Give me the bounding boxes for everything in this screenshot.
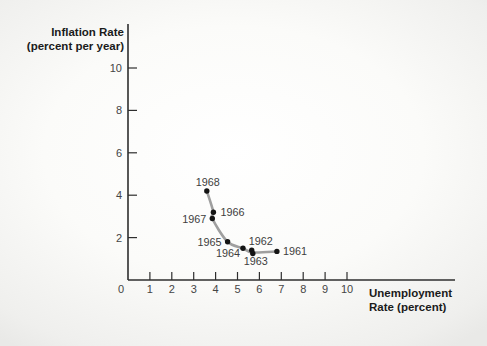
data-point-1967 [210,216,215,221]
y-tick-label-6: 6 [116,147,122,159]
x-tick-label-9: 9 [322,283,328,295]
year-label-1966: 1966 [220,206,244,218]
x-tick-label-0: 0 [118,283,124,295]
data-point-1968 [204,188,209,193]
x-axis-title-line1: Unemployment [369,287,452,301]
x-axis-title: Unemployment Rate (percent) [369,287,452,314]
y-axis-title-line1: Inflation Rate [0,26,124,40]
x-tick-label-2: 2 [169,283,175,295]
year-label-1961: 1961 [283,245,307,257]
data-point-1965 [225,239,230,244]
x-tick-label-7: 7 [278,283,284,295]
y-axis-title-line2: (percent per year) [0,40,124,54]
data-point-1961 [274,249,279,254]
y-tick-label-2: 2 [116,232,122,244]
phillips-curve-figure: 0123456789102468101961196219631964196519… [0,0,487,346]
year-label-1968: 1968 [196,176,220,188]
y-tick-label-4: 4 [116,189,122,201]
year-label-1964: 1964 [216,247,240,259]
x-tick-label-5: 5 [234,283,240,295]
data-point-1966 [211,210,216,215]
x-tick-label-6: 6 [256,283,262,295]
year-label-1965: 1965 [198,236,222,248]
x-tick-label-8: 8 [300,283,306,295]
year-label-1962: 1962 [249,235,273,247]
y-axis-title: Inflation Rate (percent per year) [0,26,124,53]
y-tick-label-10: 10 [110,62,122,74]
year-label-1963: 1963 [244,255,268,267]
year-label-1967: 1967 [182,213,206,225]
y-tick-label-8: 8 [116,104,122,116]
x-tick-label-3: 3 [191,283,197,295]
x-tick-label-4: 4 [213,283,219,295]
x-tick-label-10: 10 [341,283,353,295]
data-point-1964 [240,246,245,251]
x-axis-title-line2: Rate (percent) [369,301,452,315]
x-tick-label-1: 1 [147,283,153,295]
